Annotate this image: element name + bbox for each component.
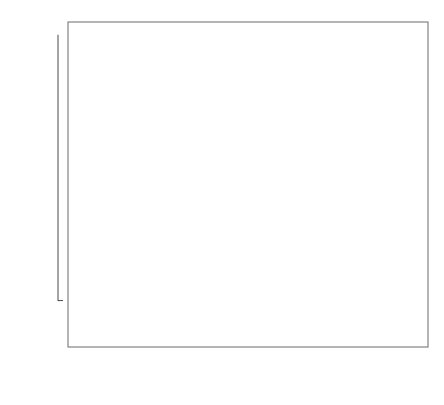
plot-frame	[68, 22, 428, 347]
chart-canvas	[0, 0, 444, 405]
boxplot-chart	[0, 0, 444, 405]
